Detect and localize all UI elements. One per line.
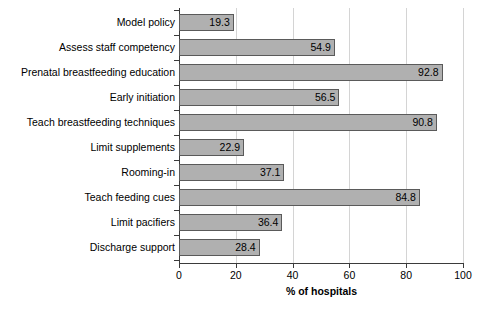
bar-value-label: 92.8 xyxy=(179,64,443,81)
category-label: Limit supplements xyxy=(3,139,175,156)
category-label: Prenatal breastfeeding education xyxy=(3,64,175,81)
bar-value-label: 90.8 xyxy=(179,114,437,131)
category-axis-labels: Model policyAssess staff competencyPrena… xyxy=(0,8,175,263)
bar-row: 54.9 xyxy=(179,39,463,56)
y-axis-tick xyxy=(174,35,179,36)
y-axis-tick xyxy=(174,85,179,86)
y-axis-tick xyxy=(174,185,179,186)
bar-row: 36.4 xyxy=(179,214,463,231)
category-label: Model policy xyxy=(3,14,175,31)
x-axis-tick-label: 100 xyxy=(443,269,483,281)
category-label: Limit pacifiers xyxy=(3,214,175,231)
bar-row: 28.4 xyxy=(179,239,463,256)
bar-value-label: 36.4 xyxy=(179,214,282,231)
x-axis-tick xyxy=(179,263,180,268)
bar-value-label: 56.5 xyxy=(179,89,339,106)
x-axis-title: % of hospitals xyxy=(179,285,464,297)
x-axis-tick xyxy=(236,263,237,268)
bar-value-label: 37.1 xyxy=(179,164,284,181)
category-label: Early initiation xyxy=(3,89,175,106)
category-label: Assess staff competency xyxy=(3,39,175,56)
bar-row: 22.9 xyxy=(179,139,463,156)
x-axis-tick xyxy=(293,263,294,268)
x-axis-tick-label: 0 xyxy=(159,269,199,281)
bar-value-label: 28.4 xyxy=(179,239,260,256)
x-axis-tick-label: 60 xyxy=(329,269,369,281)
category-label: Rooming-in xyxy=(3,164,175,181)
category-label: Discharge support xyxy=(3,239,175,256)
x-axis-tick-label: 80 xyxy=(386,269,426,281)
bar-row: 84.8 xyxy=(179,189,463,206)
bar-row: 92.8 xyxy=(179,64,463,81)
y-axis-tick xyxy=(174,210,179,211)
x-axis-tick xyxy=(349,263,350,268)
y-axis-tick xyxy=(174,10,179,11)
bar-row: 19.3 xyxy=(179,14,463,31)
bar-row: 37.1 xyxy=(179,164,463,181)
x-axis-tick xyxy=(463,263,464,268)
bar-row: 56.5 xyxy=(179,89,463,106)
y-axis-tick xyxy=(174,135,179,136)
bar-value-label: 19.3 xyxy=(179,14,234,31)
plot-area: 19.354.992.856.590.822.937.184.836.428.4 xyxy=(179,8,463,263)
x-axis-tick-label: 40 xyxy=(273,269,313,281)
bar-row: 90.8 xyxy=(179,114,463,131)
bar-value-label: 22.9 xyxy=(179,139,244,156)
category-label: Teach feeding cues xyxy=(3,189,175,206)
category-label: Teach breastfeeding techniques xyxy=(3,114,175,131)
y-axis-tick xyxy=(174,160,179,161)
y-axis-tick xyxy=(174,110,179,111)
gridline xyxy=(463,8,464,263)
x-axis-tick xyxy=(406,263,407,268)
bar-chart: Model policyAssess staff competencyPrena… xyxy=(0,0,490,312)
x-axis-tick-label: 20 xyxy=(216,269,256,281)
bar-value-label: 84.8 xyxy=(179,189,420,206)
y-axis-tick xyxy=(174,235,179,236)
x-axis-line xyxy=(179,263,464,264)
bar-value-label: 54.9 xyxy=(179,39,335,56)
y-axis-tick xyxy=(174,60,179,61)
y-axis-tick xyxy=(174,260,179,261)
